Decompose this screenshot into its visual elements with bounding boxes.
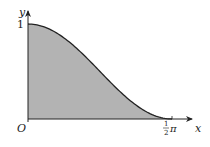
graph: y 1 O x 1 2 π xyxy=(0,0,210,147)
pi-symbol: π xyxy=(169,123,177,134)
origin-label: O xyxy=(17,122,26,135)
fraction-denominator: 2 xyxy=(164,129,168,137)
x-tick-label-half-pi: 1 2 π xyxy=(163,120,177,137)
fraction-numerator: 1 xyxy=(164,120,168,128)
y-tick-label-1: 1 xyxy=(17,18,24,31)
x-axis-label: x xyxy=(195,122,202,135)
